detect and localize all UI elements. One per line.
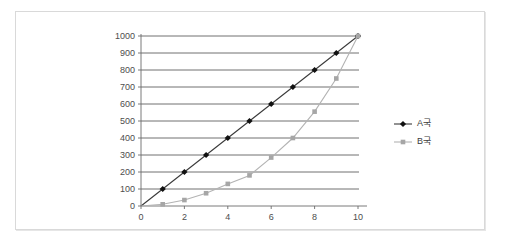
line-chart[interactable]: 01002003004005006007008009001000 0246810…	[16, 12, 486, 231]
legend-label-b[interactable]: B국	[417, 136, 431, 146]
y-tick-label-1000: 1000	[115, 31, 135, 41]
axes	[138, 34, 367, 209]
x-tick-label-4: 4	[225, 212, 230, 222]
legend-marker-a	[400, 121, 406, 127]
data-point-b-2	[182, 198, 187, 203]
x-tick-label-10: 10	[353, 212, 363, 222]
y-tick-label-400: 400	[120, 133, 135, 143]
y-tick-label-300: 300	[120, 150, 135, 160]
x-tick-label-6: 6	[269, 212, 274, 222]
y-tick-label-900: 900	[120, 48, 135, 58]
data-point-b-3	[204, 191, 209, 196]
x-tick-label-8: 8	[312, 212, 317, 222]
x-tick-label-2: 2	[182, 212, 187, 222]
x-tick-label-0: 0	[138, 212, 143, 222]
y-tick-label-600: 600	[120, 99, 135, 109]
data-point-b-9	[334, 76, 339, 81]
x-axis-tick-labels: 0246810	[138, 212, 363, 222]
y-tick-label-100: 100	[120, 184, 135, 194]
legend-label-a[interactable]: A국	[417, 118, 431, 128]
y-axis-tick-labels: 01002003004005006007008009001000	[115, 31, 135, 211]
chart-frame: 01002003004005006007008009001000 0246810…	[15, 11, 485, 230]
y-tick-label-700: 700	[120, 82, 135, 92]
y-tick-label-0: 0	[130, 201, 135, 211]
series-markers	[160, 33, 362, 207]
data-point-b-7	[291, 136, 296, 141]
chart-legend[interactable]: A국B국	[394, 118, 431, 146]
data-point-b-5	[247, 173, 252, 178]
data-point-b-1	[160, 202, 165, 207]
y-tick-label-800: 800	[120, 65, 135, 75]
data-point-b-10	[356, 34, 361, 39]
gridlines	[141, 36, 359, 189]
y-tick-label-200: 200	[120, 167, 135, 177]
data-point-b-6	[269, 155, 274, 160]
screenshot-root: 01002003004005006007008009001000 0246810…	[0, 0, 519, 248]
y-tick-label-500: 500	[120, 116, 135, 126]
data-point-b-8	[312, 109, 317, 114]
legend-marker-b	[401, 140, 406, 145]
data-point-b-4	[226, 182, 231, 187]
